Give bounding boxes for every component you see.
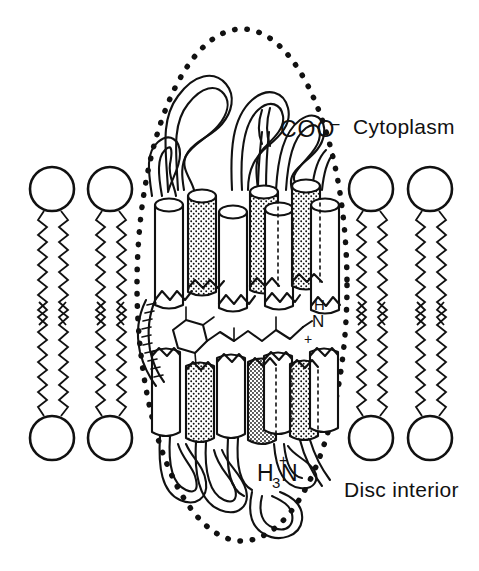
schiff-base-n: N [312, 312, 325, 331]
coo-charge: – [330, 114, 340, 133]
schiff-base-charge: + [304, 331, 313, 347]
lipid-head-group [408, 416, 452, 460]
lipid-head-group [349, 167, 393, 211]
lipid-head-group [30, 167, 74, 211]
lipid-head-group [408, 167, 452, 211]
svg-text:H: H [314, 296, 326, 313]
disc-interior-label: Disc interior [344, 478, 459, 501]
cytoplasm-label: Cytoplasm [353, 115, 455, 138]
lipid-head-group [349, 416, 393, 460]
svg-text:+: + [304, 331, 313, 347]
c-terminus-label: COO – [280, 114, 340, 142]
h3n-sub: 3 [272, 474, 281, 491]
helix-2-lower [186, 363, 214, 443]
lipid-head-group [30, 416, 74, 460]
helix-3-lower [217, 355, 245, 439]
h3n-charge: + [279, 451, 289, 468]
lipid-head-group [88, 167, 132, 211]
coo-text: COO [280, 116, 335, 142]
svg-text:+: + [279, 451, 289, 468]
svg-text:–: – [330, 114, 340, 133]
helix-5-lower [264, 353, 292, 435]
svg-text:N: N [312, 312, 325, 331]
figure-canvas: COO – Cytoplasm H N + H 3 N + Disc inter… [0, 0, 479, 571]
rhodopsin-membrane-diagram: COO – Cytoplasm H N + H 3 N + Disc inter… [0, 0, 479, 571]
svg-text:3: 3 [272, 474, 281, 491]
helix-2-upper [188, 190, 216, 296]
lipid-head-group [88, 416, 132, 460]
helix-1-lower [152, 349, 180, 437]
schiff-base-h: H [314, 296, 326, 313]
svg-text:COO: COO [280, 116, 335, 142]
